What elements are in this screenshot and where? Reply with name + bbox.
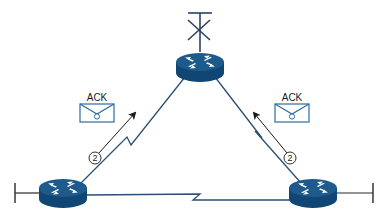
envelope-icon bbox=[275, 104, 309, 122]
router-icon bbox=[39, 179, 87, 208]
envelope-icon bbox=[80, 104, 114, 122]
ack-label-left: ACK bbox=[87, 92, 108, 103]
left-terminator bbox=[15, 183, 40, 203]
ack-message-right: ACK 2 bbox=[254, 92, 309, 164]
right-terminator bbox=[336, 183, 373, 203]
ack-label-right: ACK bbox=[282, 92, 303, 103]
step-number-left: 2 bbox=[92, 153, 97, 163]
antenna-x-icon bbox=[188, 13, 212, 52]
router-top[interactable] bbox=[176, 53, 224, 82]
link-left-to-right bbox=[87, 194, 290, 200]
ack-message-left: ACK 2 bbox=[80, 92, 135, 164]
network-diagram: ACK 2 ACK 2 bbox=[0, 0, 389, 224]
step-number-right: 2 bbox=[287, 153, 292, 163]
router-bottom-right[interactable] bbox=[289, 179, 337, 208]
router-bottom-left[interactable] bbox=[39, 179, 87, 208]
router-icon bbox=[289, 179, 337, 208]
router-icon bbox=[176, 53, 224, 82]
